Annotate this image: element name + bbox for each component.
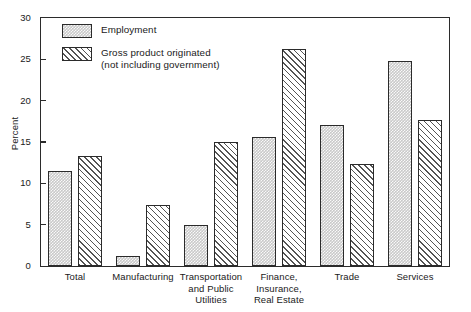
y-axis-tick-label: 10: [20, 176, 31, 189]
chart-legend: EmploymentGross product originated (not …: [62, 24, 220, 79]
bar: [282, 49, 306, 266]
bar: [116, 256, 140, 266]
bar: [388, 61, 412, 266]
y-axis-label: Percent: [9, 99, 20, 169]
x-axis-label: Services: [355, 271, 471, 283]
y-axis-tick-label: 5: [26, 218, 31, 231]
bar: [252, 137, 276, 266]
bar: [78, 156, 102, 266]
bar: [214, 142, 238, 266]
legend-label: Employment: [101, 24, 156, 36]
legend-swatch: [62, 24, 92, 38]
bar: [350, 164, 374, 266]
bar-chart: 051015202530 Percent TotalManufacturingT…: [0, 0, 471, 312]
legend-item: Gross product originated (not including …: [62, 47, 220, 70]
y-axis-tick-label: 30: [20, 11, 31, 24]
bar: [418, 120, 442, 266]
legend-swatch: [62, 47, 92, 61]
bar: [184, 225, 208, 266]
bar: [146, 205, 170, 266]
legend-item: Employment: [62, 24, 220, 38]
legend-label: Gross product originated (not including …: [101, 47, 220, 70]
y-axis-tick-label: 15: [20, 135, 31, 148]
y-axis-tick-label: 25: [20, 52, 31, 65]
y-axis-tick-label: 20: [20, 94, 31, 107]
bar: [320, 125, 344, 266]
bar: [48, 171, 72, 266]
